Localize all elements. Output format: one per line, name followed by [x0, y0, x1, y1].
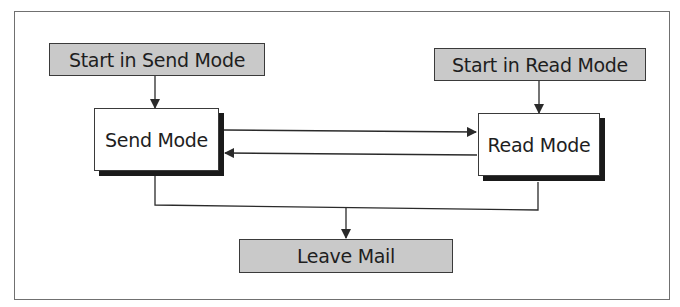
arrow-send-to-read	[224, 130, 476, 132]
arrow-read-to-send	[225, 153, 477, 155]
node-label: Send Mode	[105, 129, 208, 151]
node-label: Start in Read Mode	[452, 54, 628, 76]
node-start-send-mode: Start in Send Mode	[49, 43, 265, 76]
node-label: Start in Send Mode	[69, 49, 245, 71]
node-label: Leave Mail	[297, 245, 395, 267]
node-leave-mail: Leave Mail	[239, 239, 453, 273]
node-start-read-mode: Start in Read Mode	[434, 48, 646, 81]
node-read-mode: Read Mode	[478, 113, 600, 176]
node-label: Read Mode	[488, 134, 591, 156]
line-send-to-merge	[155, 176, 538, 210]
node-send-mode: Send Mode	[94, 108, 219, 171]
